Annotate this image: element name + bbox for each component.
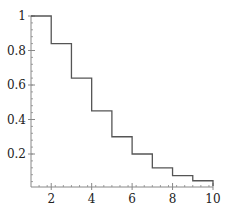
x-tick-label: 6 <box>128 192 136 206</box>
y-tick-label: 0.6 <box>7 78 26 92</box>
step-chart: 0.20.40.60.81 246810 <box>0 0 225 211</box>
x-tick-label: 4 <box>88 192 96 206</box>
y-tick-label: 1 <box>18 9 26 23</box>
step-series-line <box>31 16 213 186</box>
y-axis: 0.20.40.60.81 <box>7 9 35 187</box>
x-tick-label: 8 <box>169 192 177 206</box>
x-tick-label: 10 <box>205 192 220 206</box>
y-tick-label: 0.8 <box>7 44 26 58</box>
y-tick-label: 0.2 <box>7 147 26 161</box>
y-tick-label: 0.4 <box>7 113 26 127</box>
x-tick-label: 2 <box>47 192 55 206</box>
x-axis: 246810 <box>31 183 221 206</box>
